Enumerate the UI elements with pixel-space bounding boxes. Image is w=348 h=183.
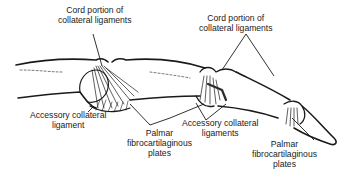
label-line: ligaments — [182, 128, 258, 138]
dip-collateral-fan — [286, 108, 298, 126]
leader-cord-right-b — [246, 34, 274, 76]
label-line: collateral ligaments — [58, 15, 132, 25]
pip-collateral-fan — [200, 76, 220, 104]
finger-ligament-diagram: Cord portion of collateral ligaments Cor… — [0, 0, 348, 183]
label-line: plates — [127, 148, 192, 158]
label-line: ligament — [30, 120, 106, 130]
label-accessory-collateral-left: Accessory collateral ligament — [30, 110, 106, 130]
label-cord-portion-right: Cord portion of collateral ligaments — [199, 13, 273, 33]
label-line: fibrocartilaginous — [252, 149, 317, 159]
label-line: Accessory collateral — [30, 110, 106, 120]
label-cord-portion-left: Cord portion of collateral ligaments — [58, 5, 132, 25]
label-line: fibrocartilaginous — [127, 138, 192, 148]
label-line: Accessory collateral — [182, 118, 258, 128]
leader-cord-right-a — [222, 34, 246, 70]
label-line: Palmar — [252, 139, 317, 149]
proximal-phalanx — [112, 59, 205, 100]
label-accessory-collateral-right: Accessory collateral ligaments — [182, 118, 258, 138]
label-line: collateral ligaments — [199, 23, 273, 33]
leader-cord-left — [93, 34, 102, 66]
middle-phalanx — [218, 72, 290, 118]
mcp-collateral-fan — [92, 66, 138, 108]
label-palmar-plates-right: Palmar fibrocartilaginous plates — [252, 139, 317, 169]
label-line: plates — [252, 159, 317, 169]
label-line: Cord portion of — [199, 13, 273, 23]
label-line: Cord portion of — [58, 5, 132, 15]
